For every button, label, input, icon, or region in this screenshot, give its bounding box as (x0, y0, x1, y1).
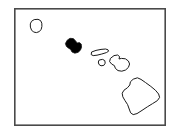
map-frame (0, 0, 175, 134)
map-background (0, 0, 175, 134)
island-kauai (30, 19, 42, 32)
map-canvas (0, 0, 175, 134)
island-lanai (98, 59, 105, 65)
hawaii-locator-map: Hawaii Hawaiian Islands locator map (0, 0, 175, 134)
